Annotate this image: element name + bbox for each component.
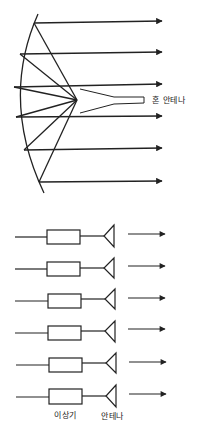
feed-rays xyxy=(14,23,77,182)
array-element xyxy=(15,289,165,309)
horn-antenna xyxy=(80,89,144,113)
array-element xyxy=(15,258,165,278)
array-element xyxy=(16,353,166,373)
array-element xyxy=(15,321,165,342)
diagram-canvas xyxy=(0,0,207,439)
array-element xyxy=(16,385,166,407)
antenna-label: 안테나 xyxy=(101,410,124,421)
array-element xyxy=(15,225,165,247)
reflector-dish xyxy=(20,14,44,193)
phase-shifter-label: 이상기 xyxy=(54,409,77,420)
phased-array-diagram xyxy=(15,225,166,407)
parabolic-reflector-diagram xyxy=(14,14,162,193)
horn-antenna-label: 혼 안테나 xyxy=(152,94,185,105)
reflected-beam-arrows xyxy=(14,21,162,182)
